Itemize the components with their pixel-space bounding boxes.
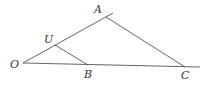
ray-oa	[23, 13, 113, 63]
segment-ub	[55, 45, 88, 65]
diagram-svg: O U A B C	[0, 0, 214, 87]
segment-ac	[106, 17, 185, 67]
label-u: U	[44, 33, 54, 46]
label-a: A	[93, 3, 102, 16]
label-b: B	[83, 68, 92, 81]
label-o: O	[10, 58, 19, 71]
label-c: C	[181, 69, 190, 82]
geometry-diagram: O U A B C	[0, 0, 214, 87]
baseline-oc	[23, 63, 200, 67]
